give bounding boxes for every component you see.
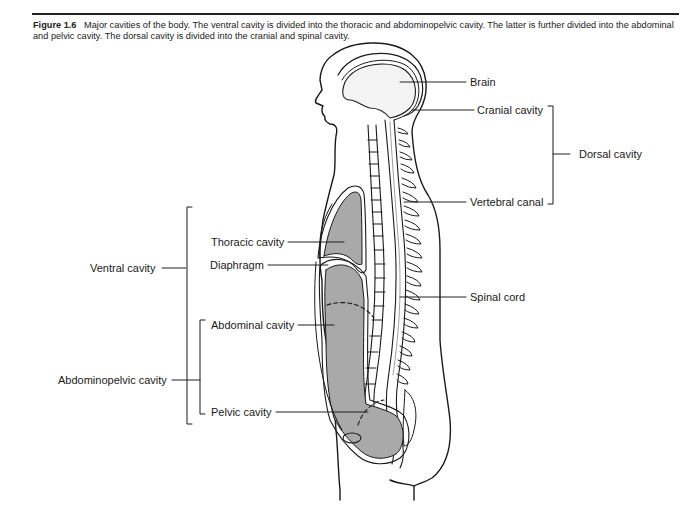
spinous-processes (397, 128, 422, 384)
dorsal-cavity-bracket (548, 106, 553, 204)
abdominopelvic-cavity-bracket (200, 320, 205, 414)
label-dorsal-cavity: Dorsal cavity (579, 148, 642, 161)
label-pelvic-cavity: Pelvic cavity (211, 406, 272, 419)
label-diaphragm: Diaphragm (210, 259, 264, 272)
vertebral-column-front (365, 125, 384, 436)
label-vertebral-canal: Vertebral canal (470, 196, 543, 209)
brain-shape (343, 64, 416, 118)
thoracic-cavity (324, 192, 362, 265)
label-cranial-cavity: Cranial cavity (477, 104, 543, 117)
label-ventral-cavity: Ventral cavity (90, 262, 155, 275)
label-spinal-cord: Spinal cord (470, 291, 525, 304)
label-abdominal-cavity: Abdominal cavity (211, 319, 294, 332)
label-abdominopelvic-cavity: Abdominopelvic cavity (58, 374, 167, 387)
label-brain: Brain (470, 76, 496, 89)
label-thoracic-cavity: Thoracic cavity (211, 236, 284, 249)
ventral-cavity-bracket (187, 207, 192, 424)
